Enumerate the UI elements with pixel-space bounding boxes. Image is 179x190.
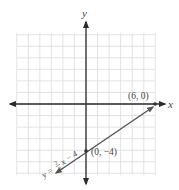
point-label-0-neg4: (0, −4) bbox=[91, 147, 117, 158]
x-axis-label: x bbox=[167, 98, 173, 110]
coordinate-plane: x y (6, 0) (0, −4) y = 2 3 x − 4 bbox=[0, 0, 179, 190]
svg-text:y =: y = bbox=[39, 165, 55, 180]
point-6-0 bbox=[153, 102, 157, 106]
point-label-6-0: (6, 0) bbox=[128, 91, 149, 102]
point-0-neg4 bbox=[84, 149, 88, 153]
series-line bbox=[56, 107, 153, 173]
y-axis-label: y bbox=[81, 7, 87, 19]
